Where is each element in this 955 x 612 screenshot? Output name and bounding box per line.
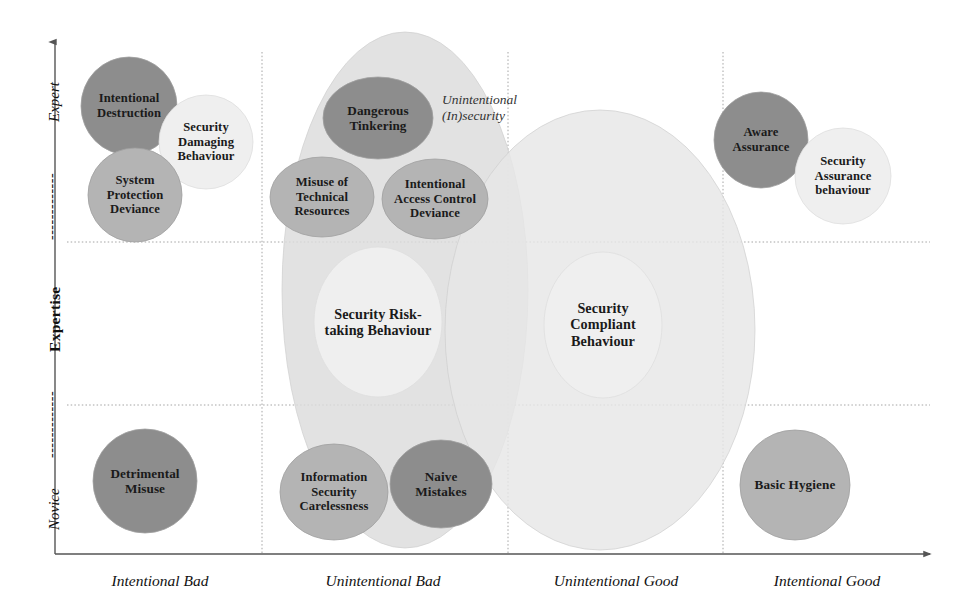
x-axis-category-0: Intentional Bad bbox=[112, 572, 209, 590]
y-axis-high-label: Expert bbox=[46, 82, 63, 122]
bubble-detrimental-misuse[interactable] bbox=[93, 429, 197, 533]
x-axis-category-3: Intentional Good bbox=[774, 572, 880, 590]
diagram-canvas: Intentional DestructionSecurity Damaging… bbox=[0, 0, 955, 612]
y-axis-title: Expertise bbox=[46, 286, 64, 352]
bubble-security-compliant-behaviour[interactable] bbox=[544, 252, 662, 398]
bubble-system-protection-deviance[interactable] bbox=[88, 148, 182, 242]
bubble-basic-hygiene[interactable] bbox=[740, 430, 850, 540]
x-axis-category-1: Unintentional Bad bbox=[326, 572, 441, 590]
bubble-aware-assurance[interactable] bbox=[714, 92, 808, 188]
bubble-naive-mistakes[interactable] bbox=[390, 440, 492, 528]
y-axis-dash-upper: ------------- bbox=[44, 173, 60, 240]
y-axis-low-label: Novice bbox=[46, 488, 63, 530]
bubble-misuse-of-technical-resources[interactable] bbox=[270, 157, 374, 237]
x-axis-category-2: Unintentional Good bbox=[554, 572, 678, 590]
bubble-information-security-carelessness[interactable] bbox=[280, 444, 388, 540]
bubble-security-risk-taking-behaviour[interactable] bbox=[314, 247, 442, 397]
bubble-security-assurance-behaviour[interactable] bbox=[795, 128, 891, 224]
bubble-intentional-access-control-deviance[interactable] bbox=[382, 159, 488, 239]
y-axis-dash-lower: ------------- bbox=[44, 391, 60, 458]
bubble-dangerous-tinkering[interactable] bbox=[323, 77, 433, 159]
cloud-annotation-label: Unintentional (In)security bbox=[442, 92, 517, 124]
